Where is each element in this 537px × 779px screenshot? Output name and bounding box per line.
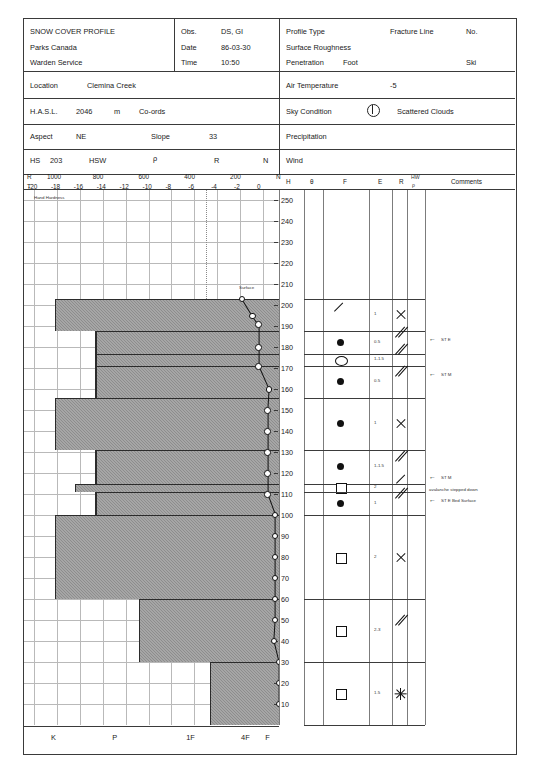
height-axis-label: 80 xyxy=(281,553,289,562)
hardness-bar-edge xyxy=(95,354,279,355)
hardness-bar-edge xyxy=(95,366,96,397)
hardness-bar-edge xyxy=(95,354,96,367)
form-title-line3: Warden Service xyxy=(30,59,82,66)
hardness-bar[interactable] xyxy=(95,366,279,397)
height-axis-label: 70 xyxy=(281,574,289,583)
comment-entry[interactable]: ←ST E Bed Surface xyxy=(429,488,476,506)
aspect-value[interactable]: NE xyxy=(76,133,86,140)
hardness-bar-edge xyxy=(55,398,56,450)
form-title-line1: SNOW COVER PROFILE xyxy=(30,28,115,35)
height-axis-tick xyxy=(274,263,278,264)
hardness-bar-edge xyxy=(139,599,140,662)
ram-profile-point[interactable] xyxy=(255,363,262,370)
hardness-bar[interactable] xyxy=(95,492,279,515)
grain-shape-icon xyxy=(337,500,344,507)
height-axis-label: 140 xyxy=(281,427,293,436)
table-column-divider xyxy=(279,190,280,725)
ram-profile-point[interactable] xyxy=(276,659,279,666)
hardness-bar[interactable] xyxy=(95,331,279,354)
hardness-axis-header: R T 1000800600400200N -20-18-16-14-12-10… xyxy=(23,174,279,190)
hand-hardness-plot[interactable]: Hand Hardness Surface xyxy=(24,190,279,725)
comment-entry[interactable]: ←ST E xyxy=(429,327,451,345)
table-column-divider xyxy=(425,190,426,725)
plot-vgrid xyxy=(80,190,81,725)
hardness-bar[interactable] xyxy=(55,398,279,450)
time-value[interactable]: 10:50 xyxy=(221,59,240,66)
col-hw-header: HW xyxy=(411,175,420,180)
col-comments-header: Comments xyxy=(451,179,482,185)
height-axis-tick xyxy=(274,221,278,222)
height-axis-label: 130 xyxy=(281,448,293,457)
precipitation-label: Precipitation xyxy=(286,133,327,140)
layer-boundary xyxy=(304,331,425,332)
height-axis-label: 150 xyxy=(281,406,293,415)
ram-profile-point[interactable] xyxy=(264,491,271,498)
hardness-bar[interactable] xyxy=(95,450,279,484)
air-temperature-value[interactable]: -5 xyxy=(390,82,397,89)
ram-profile-point[interactable] xyxy=(264,470,271,477)
profile-no-label: No. xyxy=(466,28,478,35)
grain-shape-icon xyxy=(337,420,344,427)
height-axis-tick xyxy=(274,368,278,369)
height-axis-tick xyxy=(274,431,278,432)
snow-profile-page: SNOW COVER PROFILE Parks Canada Warden S… xyxy=(0,0,537,779)
comment-leader-arrow-icon: ← xyxy=(429,496,436,503)
comment-entry[interactable]: ←ST M xyxy=(429,362,451,380)
hardness-bar[interactable] xyxy=(139,599,279,662)
ram-profile-point[interactable] xyxy=(264,449,271,456)
profile-type-label: Profile Type xyxy=(286,28,325,35)
ram-profile-point[interactable] xyxy=(276,680,279,687)
grain-size-value: 1 xyxy=(374,421,376,425)
hasl-label: H.A.S.L. xyxy=(30,108,58,115)
hardness-bar[interactable] xyxy=(55,515,279,599)
hasl-unit: m xyxy=(114,108,120,115)
hardness-scale-label: F xyxy=(265,734,270,741)
ram-profile-point[interactable] xyxy=(255,344,262,351)
ram-profile-point[interactable] xyxy=(266,386,273,393)
ram-profile-point[interactable] xyxy=(276,701,279,708)
wind-label: Wind xyxy=(286,157,303,164)
height-axis-label: 210 xyxy=(281,280,293,289)
layer-boundary xyxy=(304,725,425,726)
col-r-header: R xyxy=(399,179,404,185)
observer-label: Obs. xyxy=(181,28,197,35)
sky-condition-value[interactable]: Scattered Clouds xyxy=(397,108,454,115)
hs-value[interactable]: 203 xyxy=(50,157,62,164)
hardness-bar-edge xyxy=(95,492,96,515)
hardness-bar[interactable] xyxy=(210,662,279,725)
hasl-value[interactable]: 2046 xyxy=(76,108,92,115)
hardness-symbol-icon xyxy=(395,498,406,509)
grain-shape-icon xyxy=(336,553,347,564)
sky-condition-label: Sky Condition xyxy=(286,108,332,115)
height-axis-tick xyxy=(274,473,278,474)
half-sun-icon xyxy=(367,104,380,117)
layer-boundary xyxy=(304,299,425,300)
date-value[interactable]: 86-03-30 xyxy=(221,44,251,51)
grain-shape-icon xyxy=(337,463,344,470)
aspect-label: Aspect xyxy=(30,133,53,140)
grain-size-value: 2 xyxy=(374,485,376,489)
height-axis-label: 100 xyxy=(281,511,293,520)
ram-profile-point[interactable] xyxy=(255,321,262,328)
form-title-line2: Parks Canada xyxy=(30,44,77,51)
location-value[interactable]: Clemina Creek xyxy=(87,82,136,89)
ram-tick: 600 xyxy=(139,174,150,180)
plot-hgrid xyxy=(24,263,279,264)
ram-profile-point[interactable] xyxy=(249,313,256,320)
penetration-foot-value[interactable]: Foot xyxy=(343,59,358,66)
grain-size-value: 1-1.5 xyxy=(374,464,384,468)
layer-boundary xyxy=(304,662,425,663)
ram-tick: 400 xyxy=(184,174,195,180)
profile-type-value[interactable]: Fracture Line xyxy=(390,28,434,35)
ram-profile-point[interactable] xyxy=(264,428,271,435)
ram-profile-point[interactable] xyxy=(264,407,271,414)
grain-size-value: 1 xyxy=(374,312,376,316)
hardness-bar[interactable] xyxy=(75,484,279,492)
slope-value[interactable]: 33 xyxy=(209,133,217,140)
hardness-bar-edge xyxy=(95,331,279,332)
height-axis-tick xyxy=(274,284,278,285)
plot-caption: Hand Hardness xyxy=(34,196,65,200)
observer-value[interactable]: DS, GI xyxy=(221,28,243,35)
layer-table[interactable]: 2502402302202102001901801701601501401301… xyxy=(279,190,514,725)
hardness-bar[interactable] xyxy=(95,354,279,367)
